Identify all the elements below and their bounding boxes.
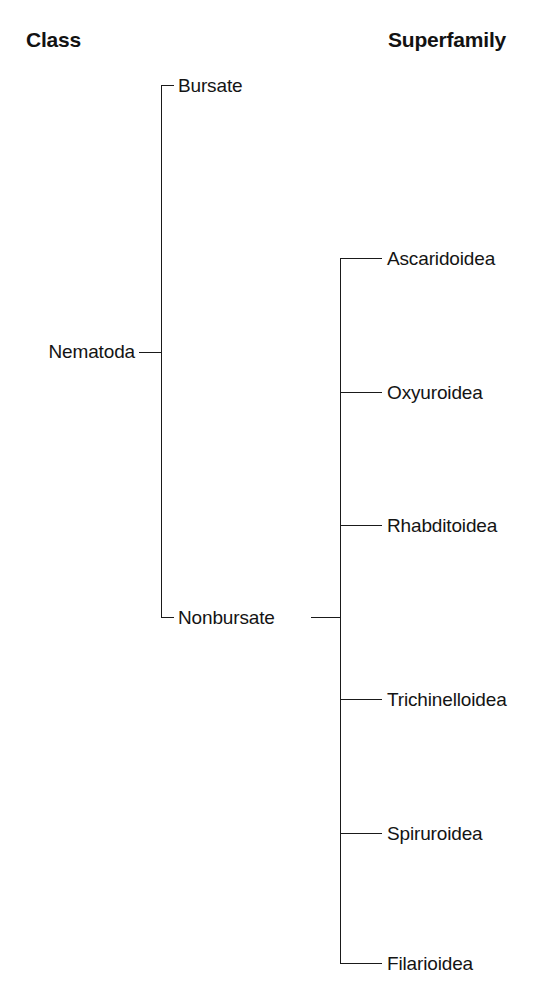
branch-line-ascaridoidea (340, 258, 382, 259)
node-label-rhabditoidea: Rhabditoidea (387, 516, 497, 535)
superfamily-spine-vertical-line (340, 258, 341, 963)
nematoda-connector-line (139, 352, 162, 353)
node-label-filarioidea: Filarioidea (387, 954, 473, 973)
branch-line-spiruroidea (340, 833, 382, 834)
node-label-spiruroidea: Spiruroidea (387, 824, 483, 843)
branch-line-trichinelloidea (340, 699, 382, 700)
node-label-nematoda: Nematoda (0, 342, 135, 361)
branch-line-rhabditoidea (340, 525, 382, 526)
node-label-oxyuroidea: Oxyuroidea (387, 383, 483, 402)
cropped-text-artifact: · · · · (0, 0, 557, 9)
node-label-trichinelloidea: Trichinelloidea (387, 690, 507, 709)
taxonomy-tree-figure: · · · · Class Superfamily Nematoda Bursa… (0, 0, 557, 992)
node-label-bursate: Bursate (178, 76, 242, 95)
branch-line-filarioidea (340, 963, 382, 964)
node-label-nonbursate: Nonbursate (178, 608, 275, 627)
column-heading-superfamily: Superfamily (388, 28, 506, 52)
nonbursate-to-superfamily-connector-line (311, 617, 341, 618)
column-heading-class: Class (26, 28, 81, 52)
bursate-connector-line (161, 85, 174, 86)
nonbursate-connector-line (161, 617, 174, 618)
cropped-text-artifact-glyphs: · · · · (0, 0, 32, 3)
branch-line-oxyuroidea (340, 392, 382, 393)
node-label-ascaridoidea: Ascaridoidea (387, 249, 495, 268)
